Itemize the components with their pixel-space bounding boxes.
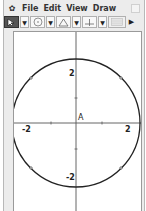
drawing-canvas[interactable]: 2 -2 -2 2 A (13, 31, 142, 211)
toolbar: ▼ ▼ ▼ ▼ ▶ (4, 15, 144, 29)
axes-tool-button[interactable] (82, 16, 97, 28)
axes-icon (84, 18, 95, 27)
y-tick-label-2: 2 (69, 70, 75, 78)
polygon-tool-button[interactable] (56, 16, 71, 28)
dropdown-arrow-icon: ▼ (48, 19, 53, 26)
circle-tool-button[interactable] (30, 16, 45, 28)
menu-draw[interactable]: Draw (93, 4, 116, 13)
toolbar-overflow-button[interactable]: ▶ (127, 16, 136, 28)
table-tool-button[interactable] (108, 16, 126, 28)
pointer-icon (7, 18, 16, 27)
point[interactable] (30, 77, 32, 79)
close-box[interactable] (131, 4, 140, 13)
pointer-tool-dropdown[interactable]: ▼ (20, 16, 29, 28)
dropdown-arrow-icon: ▼ (100, 19, 105, 26)
circle-tool-dropdown[interactable]: ▼ (46, 16, 55, 28)
dropdown-arrow-icon: ▼ (74, 19, 79, 26)
menu-file[interactable]: File (22, 4, 38, 13)
point[interactable] (120, 167, 122, 169)
y-tick-label-neg2: -2 (66, 174, 75, 182)
gear-icon[interactable]: ✿ (7, 4, 17, 13)
x-tick-label-2: 2 (125, 126, 131, 134)
polygon-tool-dropdown[interactable]: ▼ (72, 16, 81, 28)
table-icon (111, 18, 123, 26)
circle-icon (33, 17, 43, 27)
app-window: ✿ File Edit View Draw ▼ ▼ ▼ (3, 0, 145, 211)
pointer-tool-button[interactable] (4, 16, 19, 28)
point[interactable] (30, 167, 32, 169)
menu-view[interactable]: View (66, 4, 88, 13)
axes-tool-dropdown[interactable]: ▼ (98, 16, 107, 28)
menu-edit[interactable]: Edit (43, 4, 61, 13)
x-tick-label-neg2: -2 (22, 126, 31, 134)
dropdown-arrow-icon: ▼ (22, 19, 27, 26)
origin-point-label[interactable]: A (78, 114, 83, 122)
right-arrow-icon: ▶ (129, 18, 134, 26)
menu-bar: ✿ File Edit View Draw (4, 2, 144, 14)
point[interactable] (120, 77, 122, 79)
triangle-icon (58, 18, 69, 27)
